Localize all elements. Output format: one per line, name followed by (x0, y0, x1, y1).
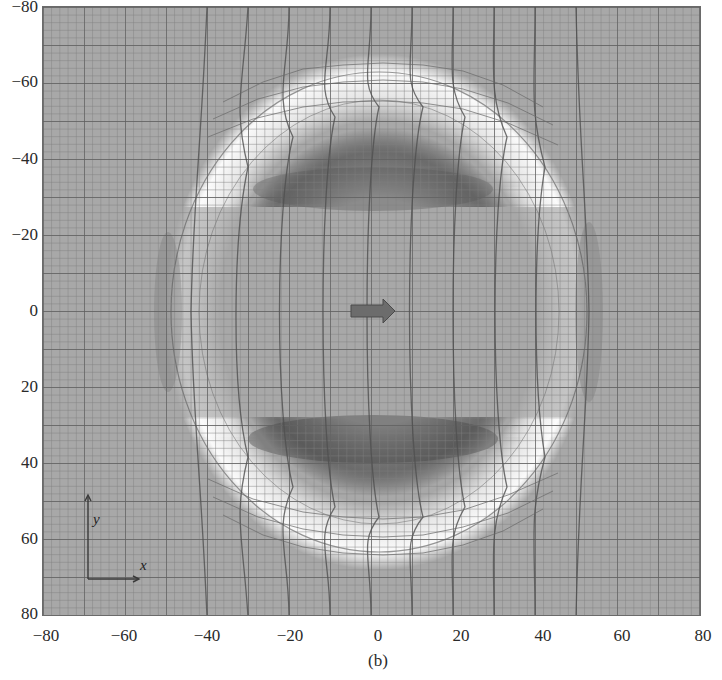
plot-area (42, 6, 701, 616)
y-tick: −40 (11, 150, 38, 167)
x-tick: −60 (111, 627, 138, 644)
y-tick: −20 (11, 226, 38, 243)
y-tick: 40 (21, 454, 38, 471)
y-tick: 0 (30, 302, 39, 319)
x-tick: 40 (535, 627, 552, 644)
x-tick: 60 (614, 627, 631, 644)
deformed-grid-field (43, 7, 701, 616)
x-tick: 80 (695, 627, 712, 644)
x-tick: −20 (277, 627, 304, 644)
figure-caption: (b) (368, 651, 388, 671)
x-tick: −80 (33, 627, 60, 644)
y-tick: 60 (21, 530, 38, 547)
x-tick: 20 (453, 627, 470, 644)
y-tick: 80 (21, 605, 38, 622)
inset-x-label: x (140, 557, 147, 574)
x-tick: 0 (374, 627, 383, 644)
inset-y-label: y (93, 511, 100, 528)
y-tick: −60 (11, 73, 38, 90)
y-tick: 20 (21, 378, 38, 395)
y-tick: −80 (11, 0, 38, 15)
x-tick: −40 (194, 627, 221, 644)
